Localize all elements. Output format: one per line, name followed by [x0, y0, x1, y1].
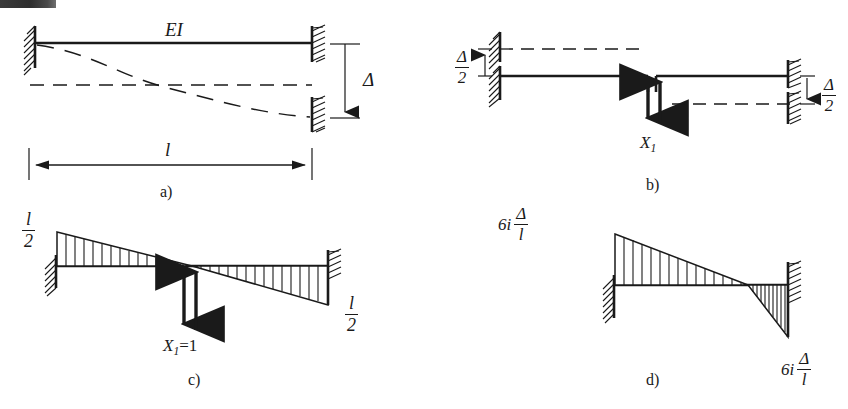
label-top-left-denominator-d: l	[514, 225, 528, 244]
panel-tag-b: b)	[646, 177, 659, 193]
dimension-settlement-a	[330, 44, 360, 118]
support-fixed-left-lower-b	[489, 66, 500, 107]
deflected-shape-a	[37, 45, 310, 117]
label-right-offset-b: Δ 2	[822, 76, 836, 115]
dimension-right-offset-b	[800, 76, 815, 104]
label-left-ordinate-c: l 2	[22, 210, 35, 251]
label-top-left-fraction-d: Δ l	[514, 205, 528, 244]
label-top-left-coefficient-d: 6i	[498, 216, 511, 233]
redundant-force-arrows-b	[648, 78, 660, 122]
support-fixed-left-upper-b	[489, 32, 500, 69]
label-right-offset-numerator-b: Δ	[822, 76, 836, 96]
label-bottom-right-numerator-d: Δ	[797, 350, 811, 370]
beam-left-segment-b	[500, 76, 648, 92]
label-span-l-a: l	[165, 140, 170, 159]
label-redundant-force-subscript-b: 1	[650, 142, 656, 155]
label-redundant-force-symbol-b: X	[640, 133, 650, 152]
moment-area-left-d	[615, 234, 748, 285]
support-fixed-right-upper-b	[788, 59, 801, 88]
label-top-left-numerator-d: Δ	[514, 205, 528, 225]
support-fixed-right-d	[788, 261, 801, 337]
diagram-svg	[0, 0, 848, 409]
label-bottom-right-coefficient-d: 6i	[781, 361, 794, 378]
moment-area-right-c	[192, 266, 328, 305]
label-left-ordinate-numerator-c: l	[22, 210, 35, 231]
moment-area-left-c	[57, 232, 192, 266]
panel-b-graphics	[478, 32, 815, 124]
label-left-offset-numerator-b: Δ	[455, 48, 469, 68]
panel-tag-a: a)	[160, 184, 172, 200]
label-bottom-right-moment-d: 6i Δ l	[781, 350, 811, 389]
label-right-ordinate-numerator-c: l	[345, 294, 358, 315]
label-unit-force-c: X1=1	[163, 337, 197, 358]
support-fixed-left-a	[24, 26, 35, 75]
label-bottom-right-fraction-d: Δ l	[797, 350, 811, 389]
dimension-span-a	[29, 148, 312, 180]
label-left-offset-b: Δ 2	[455, 48, 469, 87]
panel-tag-c: c)	[188, 372, 200, 388]
support-fixed-right-upper-a	[312, 25, 325, 62]
label-redundant-force-b: X1	[640, 134, 656, 155]
figure-canvas: EI Δ l a) Δ 2 Δ 2 X1 b) l 2 l 2 X1=1 c) …	[0, 0, 848, 409]
support-fixed-right-c	[328, 249, 341, 305]
label-left-offset-denominator-b: 2	[455, 68, 469, 87]
label-right-ordinate-c: l 2	[345, 294, 358, 335]
beam-right-segment-b	[656, 76, 788, 92]
panel-d-graphics	[603, 234, 801, 337]
label-bottom-right-denominator-d: l	[797, 370, 811, 389]
moment-area-right-d	[748, 285, 788, 337]
support-fixed-right-lower-a	[312, 96, 325, 132]
support-fixed-right-lower-b	[788, 91, 801, 124]
label-left-ordinate-denominator-c: 2	[22, 231, 35, 251]
panel-a-graphics	[24, 25, 360, 180]
unit-force-arrows-c	[184, 268, 196, 330]
label-unit-force-value-c: =1	[179, 336, 197, 355]
support-fixed-left-d	[603, 275, 614, 323]
label-flexural-rigidity-a: EI	[165, 20, 183, 39]
label-right-ordinate-denominator-c: 2	[345, 315, 358, 335]
label-settlement-delta-a: Δ	[363, 70, 374, 89]
support-fixed-left-c	[45, 255, 56, 296]
label-unit-force-symbol-c: X	[163, 336, 173, 355]
label-top-left-moment-d: 6i Δ l	[498, 205, 528, 244]
label-right-offset-denominator-b: 2	[822, 96, 836, 115]
panel-c-graphics	[45, 232, 341, 330]
panel-tag-d: d)	[646, 372, 659, 388]
